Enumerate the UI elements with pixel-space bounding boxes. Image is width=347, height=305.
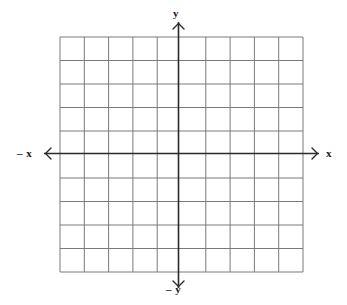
x-axis: [44, 148, 319, 159]
x-axis-negative-label: – x: [17, 148, 32, 159]
coordinate-plane-figure: y – y – x x: [0, 0, 347, 305]
x-axis-positive-label: x: [326, 148, 332, 159]
y-axis-positive-label: y: [173, 8, 179, 19]
grid-horizontal-lines: [60, 37, 303, 272]
grid-vertical-lines: [60, 37, 303, 272]
coordinate-grid-svg: [0, 0, 347, 305]
y-axis-negative-label: – y: [166, 284, 181, 295]
